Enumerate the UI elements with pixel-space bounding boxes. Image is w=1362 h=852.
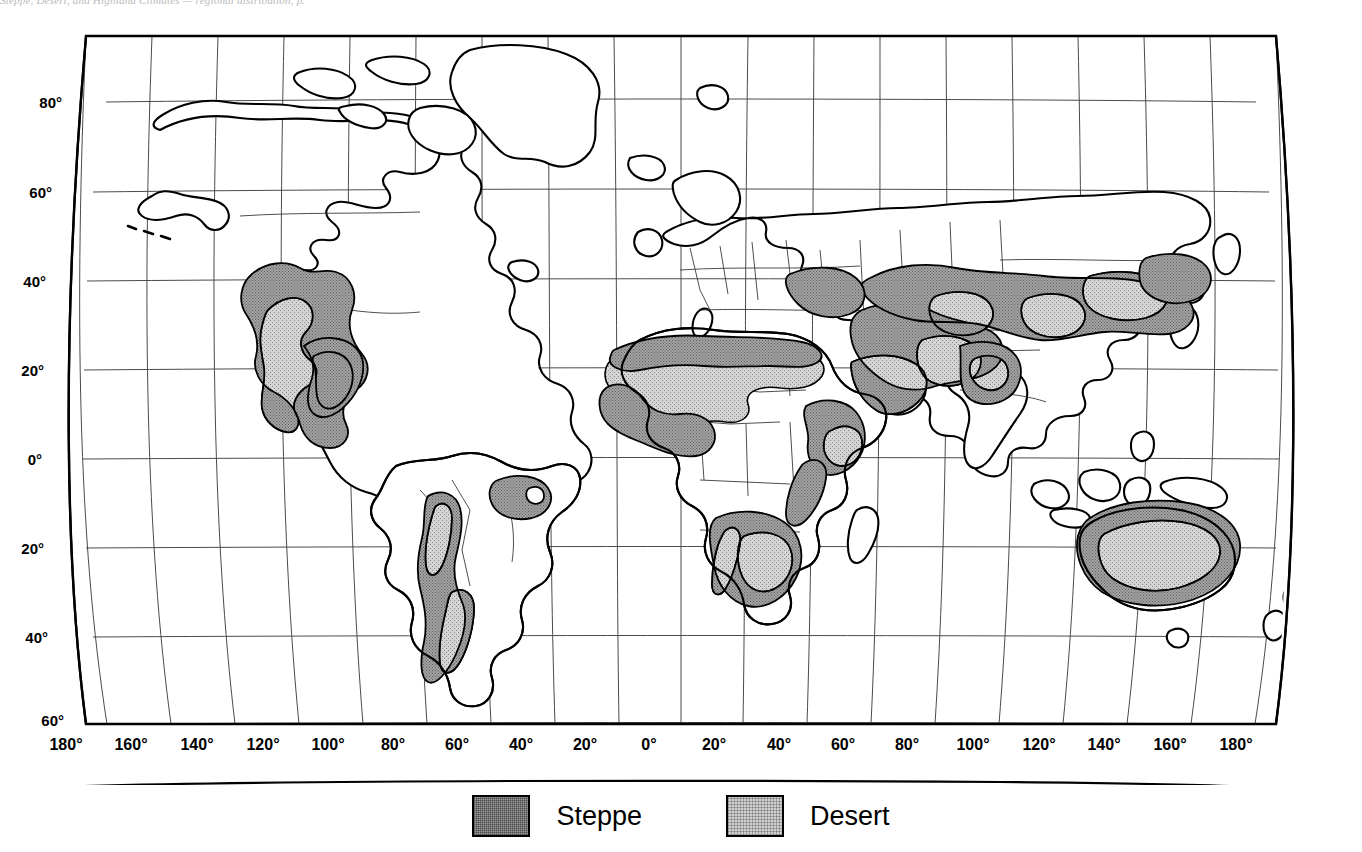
world-climate-map-page: Steppe, Desert, and Highland Climates — … [0, 0, 1362, 852]
lon-label-20w: 20° [573, 736, 597, 753]
map-figure: 80° 60° 40° 20° 0° 20° 40° 60° 180° 160°… [0, 10, 1362, 785]
lon-label-140w: 140° [180, 736, 213, 753]
lon-label-80w: 80° [381, 736, 405, 753]
legend-item-desert: Desert [726, 795, 890, 837]
lon-label-40e: 40° [767, 736, 791, 753]
lon-label-100w: 100° [311, 736, 344, 753]
steppe-swatch [472, 795, 530, 837]
lon-label-0: 0° [641, 736, 656, 753]
tasmania [1167, 629, 1189, 648]
lon-label-60e: 60° [831, 736, 855, 753]
lon-label-120w: 120° [246, 736, 279, 753]
lat-label-60n: 60° [29, 184, 52, 201]
longitude-labels: 180° 160° 140° 120° 100° 80° 60° 40° 20°… [49, 736, 1252, 753]
lon-label-20e: 20° [702, 736, 726, 753]
lon-label-160w: 160° [114, 736, 147, 753]
legend-label-steppe: Steppe [556, 801, 642, 832]
lon-label-140e: 140° [1087, 736, 1120, 753]
lon-label-40w: 40° [509, 736, 533, 753]
lon-label-180w: 180° [49, 736, 82, 753]
lat-label-60s: 60° [41, 712, 64, 729]
lon-label-80e: 80° [895, 736, 919, 753]
lon-label-100e: 100° [956, 736, 989, 753]
legend-item-steppe: Steppe [472, 795, 726, 837]
map-svg: 80° 60° 40° 20° 0° 20° 40° 60° 180° 160°… [0, 10, 1362, 785]
lon-label-180e: 180° [1219, 736, 1252, 753]
lat-label-40n: 40° [23, 273, 46, 290]
legend-label-desert: Desert [810, 801, 890, 832]
lon-label-60w: 60° [445, 736, 469, 753]
british-isles [634, 229, 662, 256]
lat-label-80n: 80° [39, 94, 62, 111]
lon-label-160e: 160° [1153, 736, 1186, 753]
lat-label-20n: 20° [21, 362, 44, 379]
lat-label-40s: 40° [25, 629, 48, 646]
latitude-labels: 80° 60° 40° 20° 0° 20° 40° 60° [21, 94, 64, 729]
lon-label-120e: 120° [1022, 736, 1055, 753]
desert-swatch [726, 795, 784, 837]
scan-header-text: Steppe, Desert, and Highland Climates — … [0, 0, 1362, 6]
lat-label-20s: 20° [21, 540, 44, 557]
philippines [1131, 432, 1154, 461]
lat-label-0: 0° [28, 451, 42, 468]
steppe-maghreb [610, 336, 822, 372]
kamchatka [1213, 234, 1240, 274]
map-legend: Steppe Desert [0, 780, 1362, 852]
steppe-mongolia [1139, 254, 1211, 303]
